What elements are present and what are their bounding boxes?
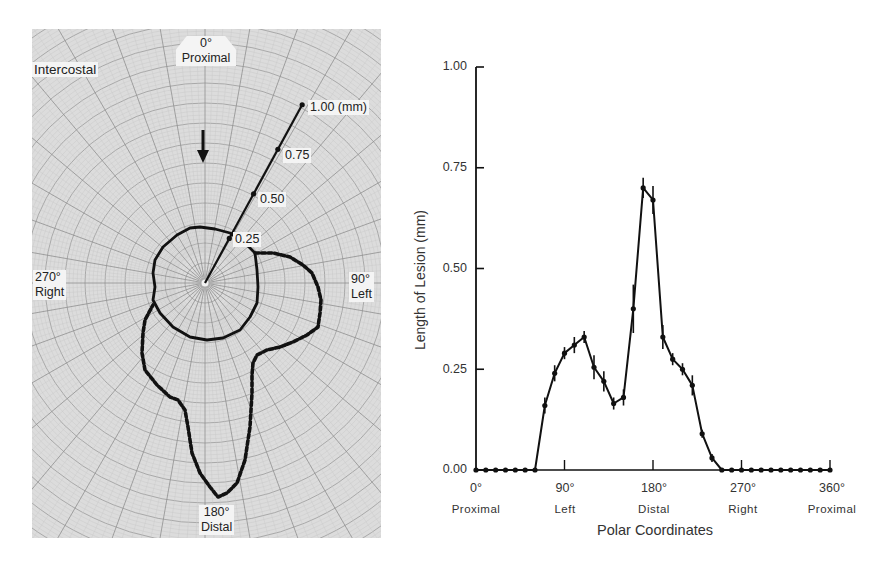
left-270-right-label: 270° Right: [33, 270, 66, 300]
bottom-degree: 180°: [201, 505, 232, 520]
y-tick-label-0-75: 0.75: [427, 160, 467, 174]
scale-tick-label-1-00: 1.00 (mm): [308, 100, 369, 115]
line-chart-panel: 1.00 0.75 0.50 0.25 0.00 0° 90° 180° 270…: [400, 40, 892, 568]
top-0-proximal-label: 0° Proximal: [176, 36, 236, 66]
x-tick-label-0: 0°: [446, 481, 506, 495]
x-tick-name-right: Right: [703, 503, 783, 515]
polar-chart-panel: Intercostal 0° Proximal 90° Left 180° Di…: [32, 29, 381, 538]
x-tick-name-proximal: Proximal: [436, 503, 516, 515]
x-tick-label-360: 360°: [802, 481, 862, 495]
x-tick-name-left: Left: [525, 503, 605, 515]
right-degree: 90°: [351, 272, 372, 287]
bottom-name: Distal: [201, 520, 232, 535]
scale-tick-label-0-50: 0.50: [258, 192, 286, 207]
y-tick-label-1-00: 1.00: [427, 59, 467, 73]
x-tick-label-90: 90°: [535, 481, 595, 495]
y-tick-label-0-25: 0.25: [427, 362, 467, 376]
top-name: Proximal: [178, 51, 234, 66]
right-name: Left: [351, 287, 372, 302]
right-90-left-label: 90° Left: [349, 272, 374, 302]
x-tick-label-180: 180°: [624, 481, 684, 495]
y-tick-label-0-50: 0.50: [427, 261, 467, 275]
y-tick-label-0-00: 0.00: [427, 462, 467, 476]
x-tick-name-distal: Distal: [614, 503, 694, 515]
left-degree: 270°: [35, 270, 64, 285]
scale-tick-label-0-25: 0.25: [233, 232, 261, 247]
x-tick-label-270: 270°: [713, 481, 773, 495]
intercostal-label: Intercostal: [32, 62, 98, 77]
x-axis-label: Polar Coordinates: [597, 522, 713, 538]
bottom-180-distal-label: 180° Distal: [199, 505, 234, 535]
x-tick-name-proximal-end: Proximal: [792, 503, 872, 515]
y-axis-label: Length of Lesion (mm): [412, 180, 428, 380]
scale-tick-label-0-75: 0.75: [283, 148, 311, 163]
left-name: Right: [35, 285, 64, 300]
top-degree: 0°: [178, 36, 234, 51]
